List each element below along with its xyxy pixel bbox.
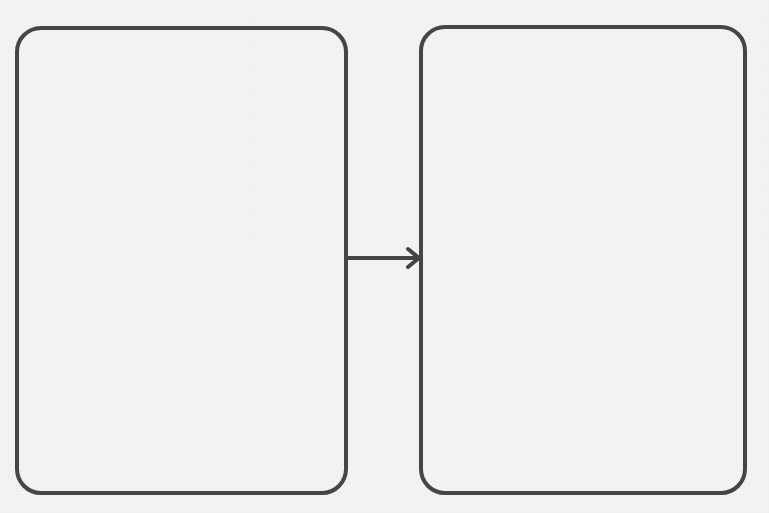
left-node-box xyxy=(15,26,348,495)
right-node-box xyxy=(419,25,747,495)
right-arrow-icon xyxy=(344,246,424,270)
